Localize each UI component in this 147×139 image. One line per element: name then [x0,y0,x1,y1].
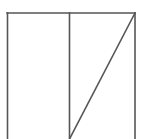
diagonal-line [70,13,136,139]
diagram-canvas [0,0,147,139]
